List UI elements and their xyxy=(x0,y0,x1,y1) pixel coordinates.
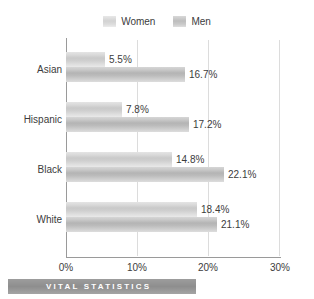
bar-value-asian-men: 16.7% xyxy=(185,67,217,82)
bar-white-men[interactable] xyxy=(66,217,217,232)
bar-row-black-men: 22.1% xyxy=(66,167,280,182)
bar-asian-women[interactable] xyxy=(66,52,105,67)
plot-area: 5.5% 16.7% 7.8% 17.2% 14.8% xyxy=(66,40,280,256)
legend-entry-men: Men xyxy=(173,16,210,27)
legend-entry-women: Women xyxy=(103,16,155,27)
bar-asian-men[interactable] xyxy=(66,67,185,82)
x-tick-label-0: 0% xyxy=(46,262,86,273)
bar-value-hispanic-men: 17.2% xyxy=(189,117,221,132)
bar-hispanic-women[interactable] xyxy=(66,102,122,117)
bar-value-asian-women: 5.5% xyxy=(105,52,132,67)
x-tick-label-20: 20% xyxy=(188,262,228,273)
bar-row-white-men: 21.1% xyxy=(66,217,280,232)
legend-label-women: Women xyxy=(121,16,155,27)
bar-value-black-men: 22.1% xyxy=(224,167,256,182)
bar-row-black-women: 14.8% xyxy=(66,152,280,167)
bar-value-hispanic-women: 7.8% xyxy=(122,102,149,117)
bar-group-asian: 5.5% 16.7% xyxy=(66,52,280,82)
footer-banner-label: VITAL STATISTICS xyxy=(8,279,151,294)
bar-value-white-women: 18.4% xyxy=(197,202,229,217)
footer-banner: VITAL STATISTICS xyxy=(8,279,196,294)
bar-black-men[interactable] xyxy=(66,167,224,182)
bar-group-white: 18.4% 21.1% xyxy=(66,202,280,232)
category-label-black: Black xyxy=(0,164,62,175)
bar-row-hispanic-women: 7.8% xyxy=(66,102,280,117)
bar-value-black-women: 14.8% xyxy=(172,152,204,167)
x-tick-label-30: 30% xyxy=(260,262,300,273)
bar-value-white-men: 21.1% xyxy=(217,217,249,232)
category-label-white: White xyxy=(0,214,62,225)
bar-group-hispanic: 7.8% 17.2% xyxy=(66,102,280,132)
legend-label-men: Men xyxy=(191,16,210,27)
bar-row-hispanic-men: 17.2% xyxy=(66,117,280,132)
chart-legend: Women Men xyxy=(0,13,314,29)
legend-swatch-women-icon xyxy=(103,16,116,27)
bar-black-women[interactable] xyxy=(66,152,172,167)
chart-figure: Women Men 5.5% 16.7% 7.8 xyxy=(0,0,314,299)
bar-hispanic-men[interactable] xyxy=(66,117,189,132)
bar-row-asian-women: 5.5% xyxy=(66,52,280,67)
bar-row-white-women: 18.4% xyxy=(66,202,280,217)
legend-swatch-men-icon xyxy=(173,16,186,27)
category-label-hispanic: Hispanic xyxy=(0,114,62,125)
x-tick-label-10: 10% xyxy=(117,262,157,273)
bar-group-black: 14.8% 22.1% xyxy=(66,152,280,182)
category-label-asian: Asian xyxy=(0,64,62,75)
bar-row-asian-men: 16.7% xyxy=(66,67,280,82)
bar-white-women[interactable] xyxy=(66,202,197,217)
x-axis-line xyxy=(66,257,281,258)
